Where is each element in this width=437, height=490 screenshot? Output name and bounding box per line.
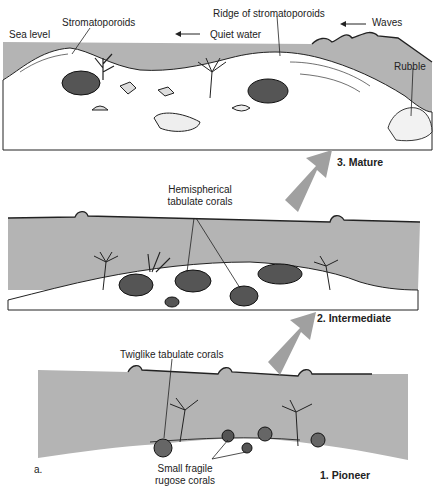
hemispherical-coral	[62, 71, 100, 95]
hemispherical-coral	[248, 79, 288, 103]
arrow-to-mature	[285, 150, 332, 212]
hemispherical-coral	[175, 270, 211, 292]
quiet-water-arrow	[175, 31, 200, 37]
arrow-to-intermediate	[268, 312, 316, 375]
sea-level-label: Sea level	[9, 29, 50, 40]
hemispherical-coral	[119, 274, 153, 296]
stromatoporoids-label: Stromatoporoids	[62, 17, 135, 28]
twig-coral-cluster	[311, 433, 325, 447]
hemispherical-label-line2: tabulate corals	[160, 196, 240, 207]
rugose-label-line2: rugose corals	[150, 475, 220, 486]
quiet-water-label: Quiet water	[210, 29, 261, 40]
hemispherical-coral	[230, 286, 258, 306]
waves-arrow	[340, 21, 366, 27]
reef-succession-diagram	[0, 0, 437, 490]
rugose-label-line1: Small fragile	[150, 463, 220, 474]
stage-intermediate-label: 2. Intermediate	[317, 312, 391, 324]
ridge-label: Ridge of stromatoporoids	[213, 8, 325, 19]
waves-label: Waves	[372, 17, 402, 28]
panel-label: a.	[34, 464, 42, 475]
rugose-coral	[242, 443, 252, 453]
twiglike-label: Twiglike tabulate corals	[120, 349, 223, 360]
hemispherical-coral	[258, 264, 302, 284]
stage-pioneer-label: 1. Pioneer	[320, 469, 370, 481]
twiglike-tabulate-coral	[154, 439, 172, 457]
rubble-label: Rubble	[394, 61, 426, 72]
twig-coral-cluster	[258, 427, 272, 441]
hemispherical-coral	[165, 297, 179, 307]
intermediate-stage-scene	[8, 212, 420, 310]
pioneer-stage-scene	[38, 359, 408, 475]
stage-mature-label: 3. Mature	[337, 156, 383, 168]
hemispherical-label-line1: Hemispherical	[160, 184, 240, 195]
